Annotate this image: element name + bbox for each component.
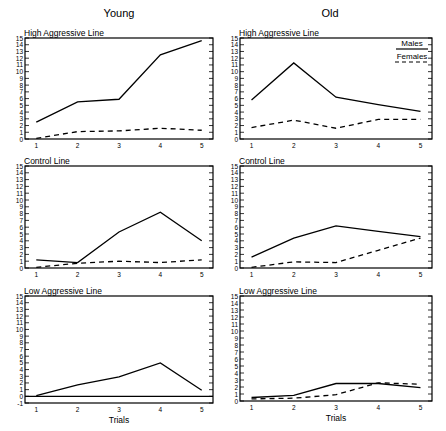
y-tick-label: 4 (234, 370, 238, 377)
series-females (36, 128, 201, 138)
series-males (252, 63, 421, 111)
y-tick-label: 2 (19, 379, 23, 386)
y-tick-label: 9 (19, 333, 23, 340)
plot-frame (25, 296, 213, 403)
y-tick-label: 13 (16, 48, 24, 55)
y-tick-label: 15 (231, 163, 239, 170)
y-tick-label: 3 (234, 377, 238, 384)
panel-old-high: High Aggressive Line01234567891011121314… (231, 28, 432, 149)
y-tick-label: 2 (19, 251, 23, 258)
panel-title: Low Aggressive Line (239, 286, 317, 296)
y-tick-label: 2 (234, 251, 238, 258)
legend: MalesFemales (395, 39, 428, 62)
y-tick-label: 0 (19, 265, 23, 272)
y-tick-label: 5 (19, 102, 23, 109)
x-axis-label: Trials (326, 413, 346, 423)
series-males (36, 41, 201, 122)
y-tick-label: 13 (231, 48, 239, 55)
y-tick-label: 12 (231, 314, 239, 321)
y-tick-label: 1 (19, 258, 23, 265)
panel-title: High Aggressive Line (239, 28, 319, 38)
y-tick-label: 4 (19, 366, 23, 373)
series-females (252, 238, 421, 267)
y-tick-label: 0 (19, 136, 23, 143)
y-tick-label: 8 (19, 210, 23, 217)
x-tick-label: 1 (250, 404, 254, 411)
x-tick-label: 3 (334, 404, 338, 411)
y-tick-label: 14 (231, 41, 239, 48)
y-tick-label: 6 (19, 95, 23, 102)
y-tick-label: 13 (16, 176, 24, 183)
x-tick-label: 3 (334, 142, 338, 149)
y-tick-label: 15 (231, 293, 239, 300)
y-tick-label: 7 (19, 217, 23, 224)
y-tick-label: 3 (19, 373, 23, 380)
x-tick-label: 5 (419, 404, 423, 411)
y-tick-label: 10 (231, 328, 239, 335)
x-tick-label: 1 (34, 271, 38, 278)
x-tick-label: 5 (419, 271, 423, 278)
y-tick-label: 1 (234, 391, 238, 398)
x-tick-label: 2 (76, 406, 80, 413)
x-tick-label: 3 (117, 271, 121, 278)
y-tick-label: 0 (234, 136, 238, 143)
y-tick-label: 3 (19, 115, 23, 122)
x-tick-label: 4 (376, 271, 380, 278)
y-tick-label: 14 (16, 41, 24, 48)
x-tick-label: 2 (76, 271, 80, 278)
y-tick-label: 1 (234, 129, 238, 136)
y-tick-label: 8 (19, 339, 23, 346)
y-tick-label: 0 (234, 398, 238, 405)
y-tick-label: 10 (16, 326, 24, 333)
x-tick-label: 4 (159, 406, 163, 413)
x-tick-label: 3 (117, 406, 121, 413)
series-males (36, 212, 201, 262)
plot-frame (240, 296, 432, 401)
x-tick-label: 2 (292, 142, 296, 149)
y-tick-label: 9 (234, 75, 238, 82)
y-tick-label: 8 (234, 342, 238, 349)
x-tick-label: 5 (200, 406, 204, 413)
y-tick-label: 13 (231, 307, 239, 314)
y-tick-label: 13 (16, 306, 24, 313)
y-tick-label: 7 (234, 217, 238, 224)
y-tick-label: 7 (19, 88, 23, 95)
x-tick-label: 2 (292, 271, 296, 278)
y-tick-label: 11 (16, 190, 23, 197)
y-tick-label: 5 (19, 359, 23, 366)
y-tick-label: 6 (234, 224, 238, 231)
legend-males: Males (401, 39, 422, 48)
y-tick-label: 12 (16, 183, 24, 190)
y-tick-label: 14 (231, 300, 239, 307)
panel-title: Low Aggressive Line (24, 286, 102, 296)
y-tick-label: 14 (16, 299, 24, 306)
plot-frame (25, 38, 213, 139)
y-tick-label: 7 (234, 349, 238, 356)
y-tick-label: 10 (231, 197, 239, 204)
panel-young-low: Low Aggressive Line-10123456789101112131… (16, 286, 213, 425)
legend-females: Females (397, 52, 428, 61)
x-tick-label: 4 (159, 142, 163, 149)
y-tick-label: 15 (16, 163, 24, 170)
y-tick-label: 9 (234, 335, 238, 342)
series-females (252, 119, 421, 128)
y-tick-label: 12 (231, 55, 239, 62)
y-tick-label: 15 (16, 293, 24, 300)
series-males (36, 363, 201, 396)
y-tick-label: 15 (231, 35, 239, 42)
y-tick-label: 1 (234, 258, 238, 265)
y-tick-label: 2 (19, 122, 23, 129)
y-tick-label: 5 (234, 102, 238, 109)
y-tick-label: 1 (19, 129, 23, 136)
series-males (252, 384, 421, 398)
y-tick-label: 3 (19, 244, 23, 251)
y-tick-label: 10 (16, 197, 24, 204)
y-tick-label: 8 (234, 210, 238, 217)
y-tick-label: 8 (19, 82, 23, 89)
y-tick-label: 4 (19, 237, 23, 244)
y-tick-label: 8 (234, 82, 238, 89)
panel-title: Control Line (239, 156, 285, 166)
y-tick-label: 6 (234, 356, 238, 363)
plot-frame (240, 166, 432, 268)
y-tick-label: 10 (16, 68, 24, 75)
